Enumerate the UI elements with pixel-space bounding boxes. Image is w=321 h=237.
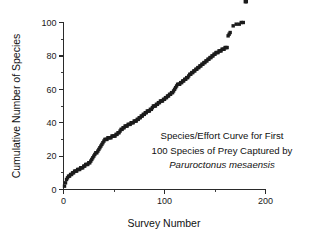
annotation-line: Species/Effort Curve for First [161, 130, 284, 141]
x-tick-label: 100 [157, 196, 172, 206]
species-effort-chart-figure: 020406080100 0100200 Survey Number Cumul… [0, 0, 321, 237]
data-point-marker [228, 31, 231, 34]
data-point-marker [231, 24, 234, 27]
annotation-line: Paruroctonus mesaensis [169, 159, 275, 170]
data-point-marker [242, 21, 245, 24]
y-tick-label: 0 [51, 185, 56, 195]
x-tick-label: 0 [61, 196, 66, 206]
y-tick-label: 20 [46, 151, 56, 161]
annotation-line: 100 Species of Prey Captured by [152, 145, 293, 156]
data-point-marker [64, 181, 67, 184]
y-tick-label: 40 [46, 118, 56, 128]
y-tick-label: 100 [41, 18, 56, 28]
x-axis-title: Survey Number [128, 217, 201, 229]
y-tick-label: 80 [46, 51, 56, 61]
x-tick-label: 200 [258, 196, 273, 206]
data-point-marker [245, 0, 248, 3]
chart-canvas: 020406080100 0100200 Survey Number Cumul… [0, 0, 321, 237]
y-axis-tick-labels: 020406080100 [41, 18, 56, 195]
x-axis-tick-labels: 0100200 [61, 196, 273, 206]
y-tick-label: 60 [46, 85, 56, 95]
chart-annotation: Species/Effort Curve for First100 Specie… [152, 130, 293, 170]
data-point-marker [63, 184, 66, 187]
data-point-marker [235, 22, 238, 25]
data-point-marker [225, 46, 228, 49]
y-axis-title: Cumulative Number of Species [10, 34, 22, 179]
